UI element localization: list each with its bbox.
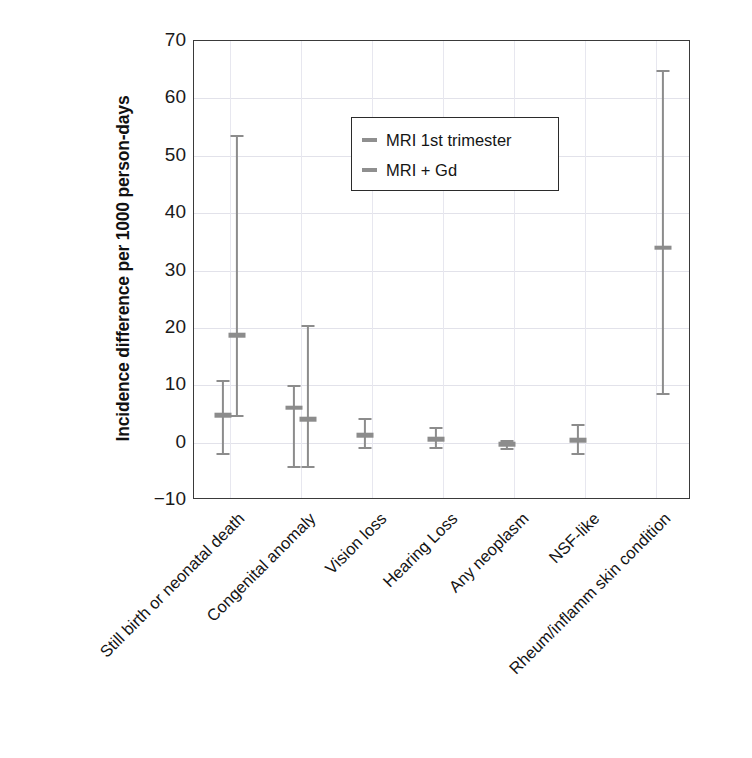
gridline-horizontal bbox=[194, 213, 689, 214]
legend-swatch-icon bbox=[362, 138, 377, 142]
gridline-horizontal bbox=[194, 385, 689, 386]
error-bar-cap-upper bbox=[230, 135, 243, 137]
y-tick-label: 30 bbox=[126, 259, 186, 281]
gridline-vertical bbox=[585, 41, 586, 498]
x-tick-label-2: Vision loss bbox=[321, 509, 390, 578]
error-bar-cap-lower bbox=[571, 453, 584, 455]
plot-area bbox=[193, 40, 690, 499]
error-bar-cap-upper bbox=[216, 380, 229, 382]
gridline-horizontal bbox=[194, 98, 689, 99]
point-estimate-marker bbox=[228, 333, 245, 338]
error-bar-cap-lower bbox=[358, 447, 371, 449]
x-tick-label-0: Still birth or neonatal death bbox=[96, 509, 248, 661]
legend-swatch-icon bbox=[362, 168, 377, 172]
chart-figure: Incidence difference per 1000 person-day… bbox=[0, 0, 752, 758]
gridline-horizontal bbox=[194, 271, 689, 272]
gridline-horizontal bbox=[194, 443, 689, 444]
x-tick-label-5: NSF-like bbox=[545, 509, 603, 567]
error-bar-cap-lower bbox=[230, 415, 243, 417]
error-bar-cap-upper bbox=[287, 385, 300, 387]
y-axis-tick-labels: −10010203040506070 bbox=[122, 40, 186, 499]
point-estimate-marker bbox=[299, 417, 316, 422]
gridline-vertical bbox=[656, 41, 657, 498]
y-tick-label: 20 bbox=[126, 316, 186, 338]
error-bar-cap-lower bbox=[216, 453, 229, 455]
error-bar-line bbox=[292, 385, 294, 465]
point-estimate-marker bbox=[427, 437, 444, 442]
legend[interactable]: MRI 1st trimester MRI + Gd bbox=[351, 117, 559, 191]
error-bar-line bbox=[306, 325, 308, 466]
legend-item-mri-gd[interactable]: MRI + Gd bbox=[362, 155, 558, 185]
legend-label: MRI + Gd bbox=[386, 161, 457, 180]
y-tick-label: 40 bbox=[126, 201, 186, 223]
error-bar-cap-upper bbox=[571, 424, 584, 426]
point-estimate-marker bbox=[569, 438, 586, 443]
gridline-vertical bbox=[372, 41, 373, 498]
point-estimate-marker bbox=[498, 442, 515, 447]
error-bar-cap-lower bbox=[429, 447, 442, 449]
error-bar-cap-lower bbox=[656, 393, 669, 395]
point-estimate-marker bbox=[356, 433, 373, 438]
error-bar-cap-lower bbox=[287, 466, 300, 468]
y-tick-label: 10 bbox=[126, 373, 186, 395]
gridline-vertical bbox=[514, 41, 515, 498]
error-bar-cap-upper bbox=[301, 325, 314, 327]
error-bar-cap-upper bbox=[656, 70, 669, 72]
point-estimate-marker bbox=[285, 405, 302, 410]
error-bar-line bbox=[235, 135, 237, 416]
gridline-horizontal bbox=[194, 328, 689, 329]
y-tick-label: 60 bbox=[126, 86, 186, 108]
gridline-vertical bbox=[230, 41, 231, 498]
error-bar-cap-upper bbox=[358, 418, 371, 420]
point-estimate-marker bbox=[654, 245, 671, 250]
y-tick-label: 0 bbox=[126, 431, 186, 453]
error-bar-cap-upper bbox=[429, 427, 442, 429]
y-tick-label: −10 bbox=[126, 488, 186, 510]
legend-label: MRI 1st trimester bbox=[386, 131, 512, 150]
gridline-vertical bbox=[301, 41, 302, 498]
error-bar-cap-lower bbox=[301, 466, 314, 468]
error-bar-line bbox=[661, 70, 663, 394]
gridline-vertical bbox=[443, 41, 444, 498]
legend-item-mri-1st-trimester[interactable]: MRI 1st trimester bbox=[362, 125, 558, 155]
error-bar-cap-lower bbox=[500, 448, 513, 450]
y-tick-label: 70 bbox=[126, 29, 186, 51]
point-estimate-marker bbox=[214, 413, 231, 418]
y-tick-label: 50 bbox=[126, 144, 186, 166]
